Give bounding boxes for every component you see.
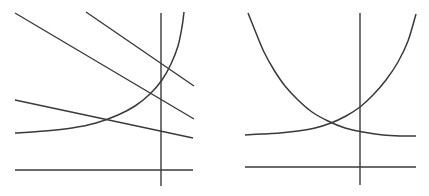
left-panel-line-1 — [15, 13, 194, 119]
right-panel — [245, 13, 416, 185]
right-panel-exponential-rising-curve — [245, 14, 416, 135]
left-panel-exponential-rising-curve — [15, 12, 184, 133]
math-figure-svg — [0, 0, 429, 196]
left-panel — [15, 12, 194, 186]
math-figure-container — [0, 0, 429, 196]
left-panel-line-3 — [15, 100, 193, 138]
